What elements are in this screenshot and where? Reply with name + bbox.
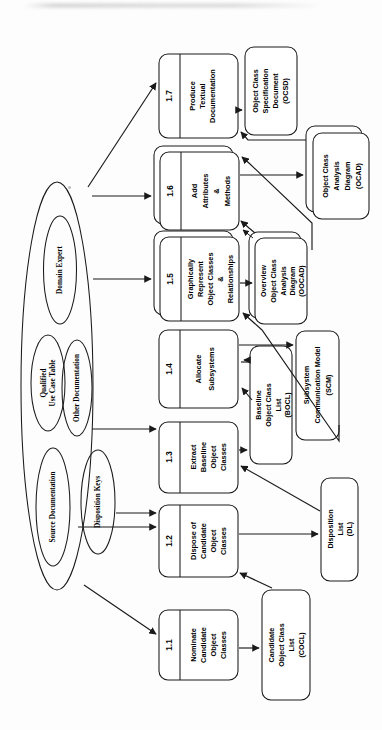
process-1-7-line-3: Documentation xyxy=(208,69,217,123)
entity-qualified-use-case-table-label-2: Use Case Table xyxy=(48,359,57,407)
dfd-svg: Domain Expert Qualified Use Case Table O… xyxy=(0,0,382,730)
store-bocl-line-2: Object Class xyxy=(264,383,273,427)
entity-outer-boundary xyxy=(21,182,93,590)
process-1-5-line-4: & xyxy=(216,276,225,282)
flow-entity-to-1-1 xyxy=(84,585,156,634)
store-dl[interactable]: Disposition List (DL) xyxy=(321,478,358,581)
process-1-6-line-1: Add xyxy=(190,183,199,198)
process-1-3[interactable]: 1.3 Extract Baseline Object Classes xyxy=(159,422,238,493)
process-1-4-line-1: Allocate xyxy=(194,355,203,384)
process-1-7-line-2: Textual xyxy=(198,83,207,108)
process-1-4-line-2: Subsystems xyxy=(207,347,216,391)
process-1-2-line-2: Candidate xyxy=(199,523,208,559)
store-scm-line-2: Communication Model xyxy=(313,346,322,423)
flow-1-5-to-1-6 xyxy=(243,230,253,238)
store-ocsd-line-3: Document xyxy=(271,73,280,109)
store-ocsd-line-1: Object Class xyxy=(251,69,260,113)
process-1-2-line-1: Dispose of xyxy=(189,522,198,560)
process-1-3-line-1: Extract xyxy=(189,444,198,470)
entity-other-documentation-label: Other Documentation xyxy=(72,354,81,422)
store-ocad-line-1: Object Class xyxy=(321,154,330,198)
store-bocl-line-4: (BOCL) xyxy=(283,392,292,418)
store-cocl[interactable]: Candidate Object Class List (COCL) xyxy=(262,590,310,700)
process-1-4[interactable]: 1.4 Allocate Subsystems xyxy=(159,330,238,408)
process-1-6-line-2: Attributes xyxy=(201,174,210,209)
store-oocad-line-1: Overview xyxy=(259,265,268,297)
store-scm[interactable]: Subsystem Communication Model (SCM) xyxy=(296,331,339,440)
entity-qualified-use-case-table-label-1: Qualified xyxy=(39,368,48,397)
process-1-7-number: 1.7 xyxy=(165,90,174,102)
entity-domain-expert-label: Domain Expert xyxy=(55,245,64,294)
flow-oocad-to-1-6 xyxy=(241,221,255,233)
process-1-5-line-1: Graphically xyxy=(186,258,195,299)
store-oocad[interactable]: Overview Object Class Analysis Diagram (… xyxy=(249,232,307,324)
process-1-1-line-3: Object xyxy=(209,633,218,657)
store-ocsd-line-4: (OCSD) xyxy=(281,78,290,104)
process-1-3-line-3: Object xyxy=(209,445,218,469)
process-1-3-line-4: Classes xyxy=(219,443,228,471)
process-1-1-line-2: Candidate xyxy=(199,627,208,663)
store-oocad-line-5: (OOCAD) xyxy=(297,265,306,297)
process-1-2-line-3: Object xyxy=(209,529,218,553)
process-1-1-line-4: Classes xyxy=(219,631,228,659)
store-dl-line-3: (DL) xyxy=(345,521,354,536)
process-1-6-number: 1.6 xyxy=(166,185,175,197)
store-ocsd-line-2: Specification xyxy=(261,69,270,114)
process-1-6-line-4: Methods xyxy=(223,176,232,206)
store-ocsd[interactable]: Object Class Specification Document (OCS… xyxy=(245,47,297,135)
store-scm-line-3: (SCM) xyxy=(324,374,333,395)
entity-disposition-keys-label: Disposition Keys xyxy=(93,476,102,528)
process-1-5[interactable]: 1.5 Graphically Represent Object Classes… xyxy=(154,231,239,321)
store-cocl-line-2: Object Class xyxy=(277,623,286,667)
store-ocad-line-2: Analysis xyxy=(332,161,341,191)
store-bocl-line-3: List xyxy=(274,398,283,411)
process-1-2-number: 1.2 xyxy=(165,535,174,547)
process-1-5-line-5: Relationships xyxy=(226,255,235,303)
diagram-canvas: Domain Expert Qualified Use Case Table O… xyxy=(0,0,382,730)
store-oocad-line-4: Diagram xyxy=(288,267,297,296)
flow-cocl-to-1-2 xyxy=(240,573,272,588)
store-cocl-line-4: (COCL) xyxy=(297,632,306,658)
process-1-1-line-1: Nominate xyxy=(189,628,198,662)
store-dl-line-1: Disposition xyxy=(326,509,335,548)
process-1-6-line-3: & xyxy=(212,188,221,194)
process-1-1-number: 1.1 xyxy=(165,639,174,651)
store-oocad-line-2: Object Class xyxy=(269,259,278,303)
process-1-5-number: 1.5 xyxy=(166,273,175,285)
process-1-7[interactable]: 1.7 Produce Textual Documentation xyxy=(159,54,238,138)
store-dl-line-2: List xyxy=(336,522,345,535)
store-cocl-line-1: Candidate xyxy=(267,628,276,663)
store-cocl-line-3: List xyxy=(287,638,296,651)
store-ocad[interactable]: Object Class Analysis Diagram (OCAD) xyxy=(306,126,369,219)
process-1-5-line-2: Represent xyxy=(196,260,205,297)
process-1-7-line-1: Produce xyxy=(188,81,197,111)
store-ocad-line-4: (OCAD) xyxy=(354,162,363,189)
external-entities-group: Domain Expert Qualified Use Case Table O… xyxy=(21,182,115,590)
process-1-6[interactable]: 1.6 Add Attributes & Methods xyxy=(154,146,239,230)
store-ocad-line-3: Diagram xyxy=(343,162,352,191)
process-1-4-number: 1.4 xyxy=(165,363,174,375)
process-1-3-number: 1.3 xyxy=(165,451,174,463)
process-1-1[interactable]: 1.1 Nominate Candidate Object Classes xyxy=(159,610,238,680)
process-1-2[interactable]: 1.2 Dispose of Candidate Object Classes xyxy=(159,505,238,577)
process-1-5-line-3: Object Classes xyxy=(206,253,215,306)
process-1-2-line-4: Classes xyxy=(219,527,228,555)
store-oocad-line-3: Analysis xyxy=(279,266,288,296)
process-1-3-line-2: Baseline xyxy=(199,442,208,472)
flow-dl-to-1-3 xyxy=(241,466,320,511)
flow-entity-to-1-7 xyxy=(88,83,156,187)
store-bocl-line-1: Baseline xyxy=(254,390,263,420)
entity-source-documentation-label: Source Documentation xyxy=(48,471,57,542)
